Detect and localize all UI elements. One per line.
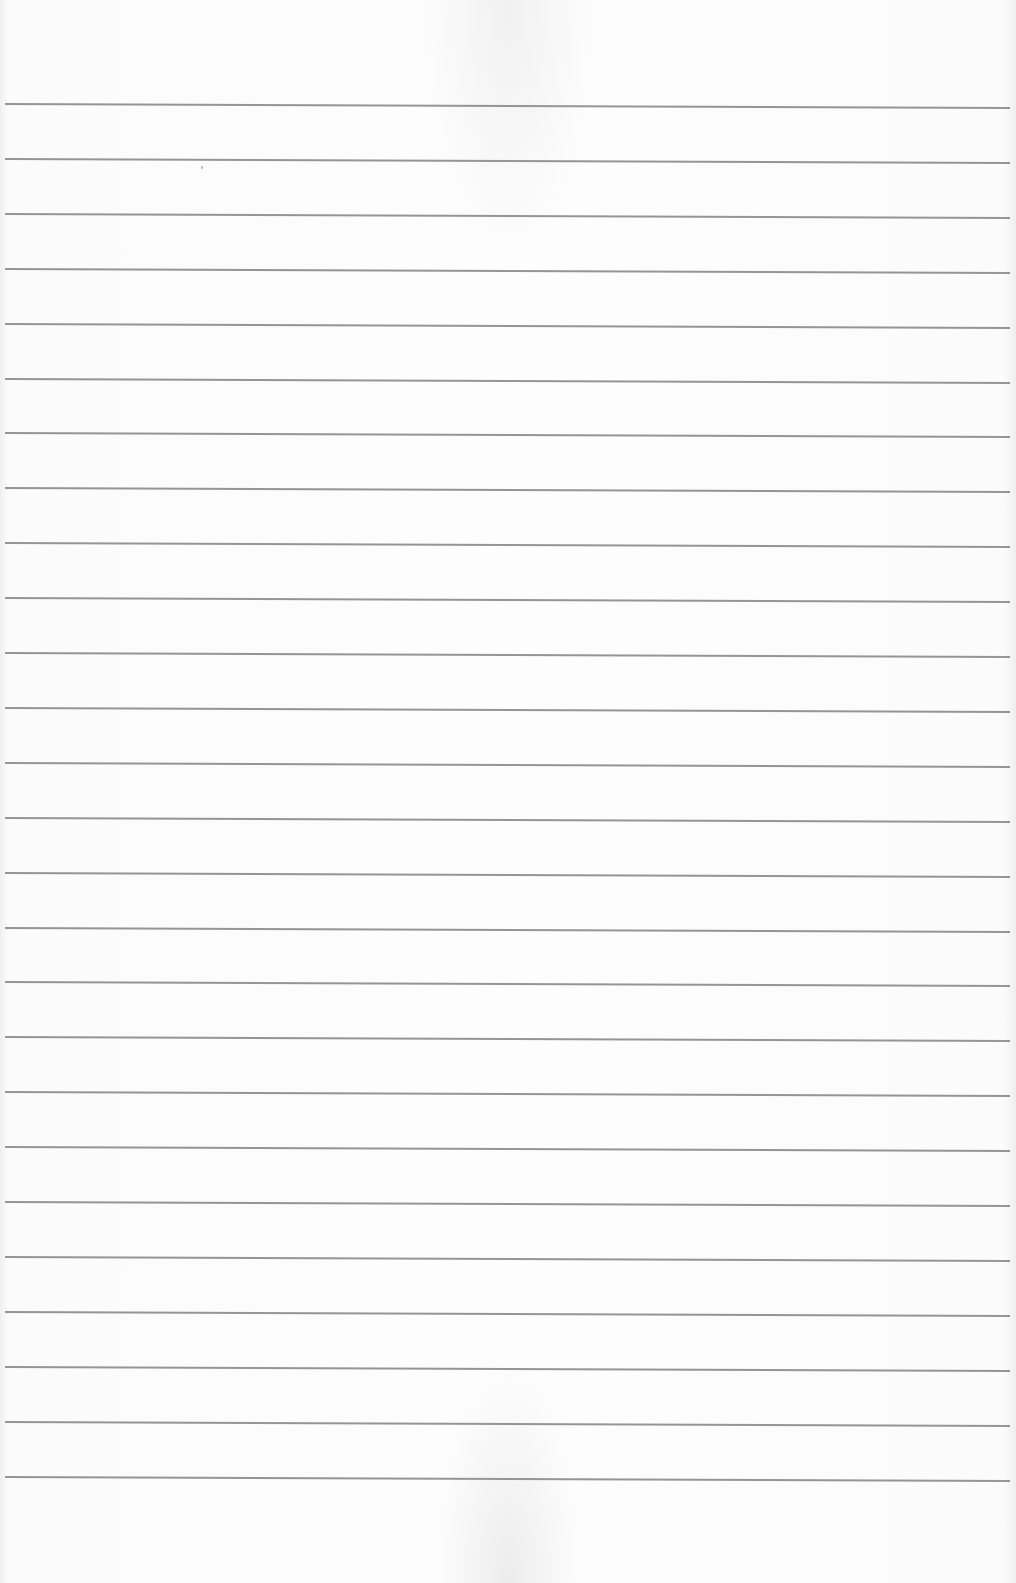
ruled-line: [5, 927, 1010, 933]
ruled-line: [5, 1476, 1010, 1482]
ruled-line: [5, 1091, 1010, 1097]
ruled-line: [5, 1256, 1010, 1262]
ruled-line: [5, 1146, 1010, 1152]
ruled-line: [5, 762, 1010, 768]
ruled-line: [5, 707, 1010, 713]
ruled-line: [5, 1311, 1010, 1317]
ruled-line: [5, 378, 1010, 384]
ruled-line: [5, 103, 1010, 109]
lined-paper-sheet: [0, 0, 1016, 1583]
ruled-line: [5, 872, 1010, 878]
ruled-line: [5, 268, 1010, 274]
ruled-line: [5, 1366, 1010, 1372]
ruled-line: [5, 981, 1010, 987]
ruled-lines: [0, 0, 1016, 1583]
ruled-line: [5, 487, 1010, 493]
ruled-line: [5, 597, 1010, 603]
ruled-line: [5, 652, 1010, 658]
ruled-line: [5, 1036, 1010, 1042]
ruled-line: [5, 817, 1010, 823]
ruled-line: [5, 1201, 1010, 1207]
ruled-line: [5, 213, 1010, 219]
paper-speck: [201, 166, 203, 169]
ruled-line: [5, 158, 1010, 164]
ruled-line: [5, 542, 1010, 548]
ruled-line: [5, 323, 1010, 329]
ruled-line: [5, 432, 1010, 438]
ruled-line: [5, 1421, 1010, 1427]
